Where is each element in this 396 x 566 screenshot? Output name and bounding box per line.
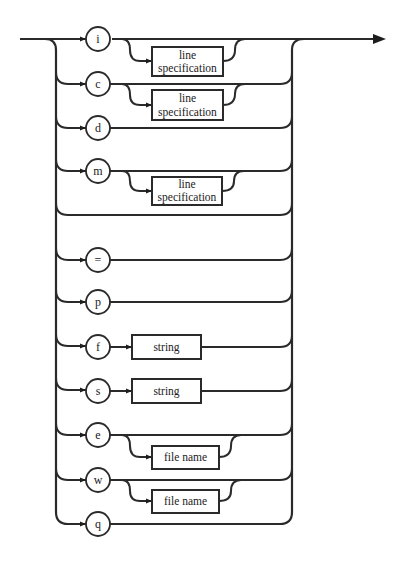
command-p: p: [86, 290, 110, 314]
exit-arrow-icon: [373, 34, 386, 44]
box-text-specification: specification: [158, 191, 217, 204]
box-text-file-name: file name: [164, 451, 207, 463]
command-q: q: [86, 512, 110, 536]
terminal-label-w: w: [94, 473, 103, 487]
terminal-label-equals: =: [95, 253, 102, 267]
right-rail: [280, 39, 304, 524]
box-text-string: string: [153, 341, 179, 354]
main-line: [20, 34, 386, 44]
left-rail: [45, 39, 68, 524]
box-text-string: string: [153, 385, 179, 398]
line-spec-box-m: line specification: [152, 177, 222, 205]
command-c: c: [86, 72, 110, 96]
command-i: i: [86, 27, 110, 51]
file-name-box-e: file name: [152, 446, 219, 469]
box-text-line: line: [179, 49, 196, 61]
command-d: d: [86, 116, 110, 140]
terminal-label-e: e: [95, 428, 100, 442]
line-spec-box-c: line specification: [152, 90, 223, 120]
terminal-label-f: f: [96, 340, 100, 354]
string-box-f: string: [132, 335, 201, 359]
command-f: f: [86, 335, 110, 359]
command-s: s: [86, 379, 110, 403]
line-spec-box-i: line specification: [152, 47, 223, 76]
box-text-specification: specification: [158, 106, 217, 119]
box-text-file-name: file name: [164, 495, 207, 507]
command-equals: =: [86, 248, 110, 272]
terminal-label-s: s: [96, 384, 101, 398]
string-box-s: string: [132, 379, 201, 403]
syntax-diagram: i c d m = p f s e w q line: [0, 0, 396, 566]
terminal-label-m: m: [93, 164, 103, 178]
terminal-label-q: q: [95, 517, 101, 531]
file-name-box-w: file name: [152, 490, 219, 513]
terminal-label-p: p: [95, 295, 101, 309]
box-text-line: line: [178, 178, 195, 190]
command-w: w: [86, 468, 110, 492]
box-text-specification: specification: [158, 62, 217, 75]
command-m: m: [86, 159, 110, 183]
command-e: e: [86, 423, 110, 447]
terminal-label-d: d: [95, 121, 101, 135]
box-text-line: line: [179, 92, 196, 104]
terminal-label-c: c: [95, 77, 100, 91]
